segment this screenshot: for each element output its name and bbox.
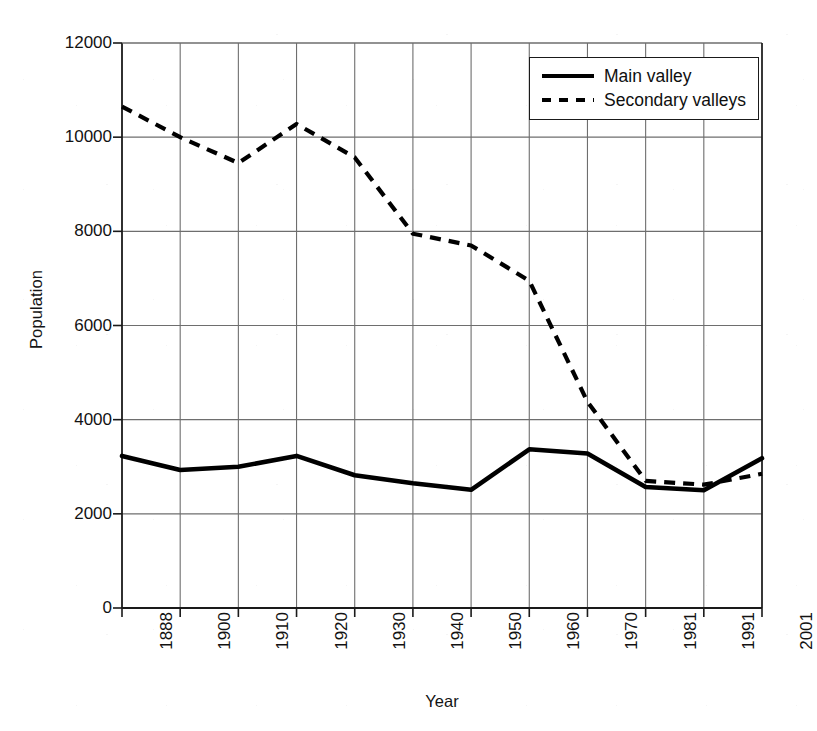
legend-entry-main-valley: Main valley	[540, 64, 746, 88]
legend-swatch-dashed-line-icon	[540, 94, 596, 106]
legend: Main valley Secondary valleys	[529, 57, 759, 120]
legend-label-main-valley: Main valley	[604, 66, 692, 87]
series-line-secondary-valleys	[122, 107, 762, 485]
legend-label-secondary-valleys: Secondary valleys	[604, 90, 746, 111]
legend-entry-secondary-valleys: Secondary valleys	[540, 88, 746, 112]
axis-ticks	[113, 43, 762, 617]
data-series-layer	[122, 107, 762, 491]
legend-swatch-solid-line-icon	[540, 70, 596, 82]
grid-lines	[122, 43, 762, 608]
